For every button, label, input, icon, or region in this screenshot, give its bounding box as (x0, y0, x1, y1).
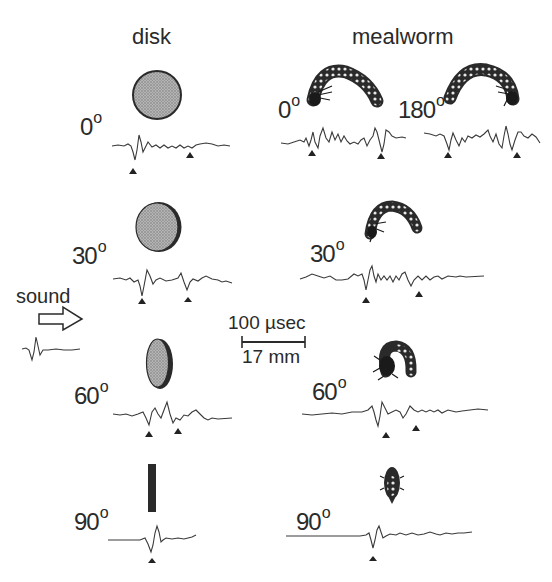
mealworm-60-waveform (302, 402, 488, 426)
mealworm-180-marker-1 (444, 152, 452, 158)
mealworm-180-marker-2 (513, 152, 521, 158)
mealworm-90-waveform (286, 526, 472, 548)
disk-90-marker (148, 558, 156, 563)
mealworm-30-waveform (300, 266, 484, 290)
mealworm-90-icon (380, 467, 404, 504)
mealworm-0-marker-1 (308, 150, 316, 156)
disk-0-waveform (112, 135, 230, 160)
figure-graphics (0, 0, 552, 582)
disk-0-marker-1 (129, 168, 137, 174)
mealworm-90-marker (369, 556, 377, 561)
mealworm-0-icon (309, 71, 377, 106)
sound-arrow-icon (39, 307, 82, 330)
disk-30-marker-2 (184, 297, 192, 302)
scale-bar (242, 336, 305, 348)
mealworm-180-icon (450, 70, 518, 106)
mealworm-60-marker-2 (412, 425, 420, 431)
mealworm-30-marker-1 (362, 297, 370, 303)
mealworm-0-marker-2 (377, 153, 385, 159)
disk-30-waveform (113, 270, 232, 296)
mealworm-30-marker-2 (415, 291, 423, 297)
sound-pulse-waveform (22, 337, 80, 360)
mealworm-180-waveform (424, 126, 540, 150)
mealworm-30-icon (367, 206, 417, 242)
disk-90-waveform (108, 526, 196, 552)
disk-60-marker-1 (145, 431, 153, 437)
disk-0-marker-2 (186, 152, 194, 158)
mealworm-60-marker-1 (382, 432, 390, 438)
disk-90-bar (148, 464, 156, 512)
disk-0-circle (133, 71, 181, 119)
mealworm-0-waveform (281, 128, 406, 152)
disk-30-ellipse (136, 202, 182, 252)
disk-30-marker-1 (138, 298, 146, 304)
disk-60-waveform (113, 402, 232, 425)
mealworm-60-icon (373, 346, 411, 380)
disk-60-ellipse (147, 339, 174, 389)
disk-60-marker-2 (174, 428, 182, 434)
